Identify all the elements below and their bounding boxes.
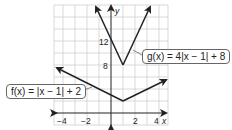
tick-y-8: 8 (103, 61, 108, 71)
tick-x-2: 2 (133, 116, 138, 126)
x-axis-label: x (161, 116, 167, 126)
g-function-callout: g(x) = 4|x − 1| + 8 (142, 49, 230, 64)
tick-y-12: 12 (99, 37, 109, 47)
chart-plot: −4 −2 2 4 x y 12 8 (0, 0, 232, 130)
f-function-callout: f(x) = |x − 1| + 2 (6, 84, 86, 99)
tick-x-neg4: −4 (57, 116, 67, 126)
tick-x-neg2: −2 (81, 116, 91, 126)
g-function-label: g(x) = 4|x − 1| + 8 (147, 51, 225, 62)
tick-labels: −4 −2 2 4 x y 12 8 (57, 6, 167, 126)
f-function-label: f(x) = |x − 1| + 2 (11, 86, 81, 97)
axes (56, 6, 166, 126)
tick-x-4: 4 (154, 116, 159, 126)
y-axis-label: y (114, 6, 120, 16)
